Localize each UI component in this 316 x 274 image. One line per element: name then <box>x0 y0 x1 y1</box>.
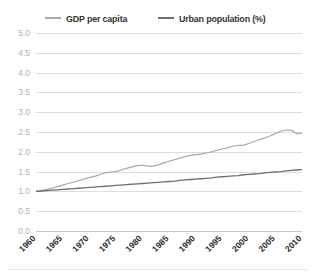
y-tick-label: 2.5 <box>18 127 30 137</box>
x-tick-label: 1990 <box>177 233 198 254</box>
y-tick-label: 0.5 <box>18 206 30 216</box>
y-tick-label: 4.0 <box>18 68 30 78</box>
x-tick-label: 1985 <box>150 233 171 254</box>
x-tick-label: 1965 <box>44 233 65 254</box>
series-line-gdp-per-capita <box>36 130 302 191</box>
y-tick-label: 3.5 <box>18 87 30 97</box>
y-tick-label: 1.0 <box>18 186 30 196</box>
x-tick-label: 2000 <box>230 233 251 254</box>
x-tick-label: 1995 <box>203 233 224 254</box>
x-tick-label: 1980 <box>123 233 144 254</box>
x-tick-label: 2010 <box>283 233 304 254</box>
y-tick-label: 5.0 <box>18 28 30 38</box>
y-axis-tick-labels: 0.00.51.01.52.02.53.03.54.04.55.0 <box>18 28 30 236</box>
line-chart-plot: 0.00.51.01.52.02.53.03.54.04.55.0 196019… <box>0 0 316 274</box>
gridlines-group <box>36 34 302 232</box>
x-tick-label: 1960 <box>17 233 38 254</box>
y-tick-label: 1.5 <box>18 167 30 177</box>
chart-figure: GDP per capita Urban population (%) 0.00… <box>0 0 316 274</box>
x-tick-label: 1975 <box>97 233 118 254</box>
y-tick-label: 3.0 <box>18 107 30 117</box>
x-tick-label: 2005 <box>256 233 277 254</box>
y-tick-label: 2.0 <box>18 147 30 157</box>
x-axis-tick-labels: 1960196519701975198019851990199520002005… <box>17 233 304 254</box>
y-tick-label: 4.5 <box>18 48 30 58</box>
x-tick-label: 1970 <box>70 233 91 254</box>
figure-bottom-divider <box>8 269 308 270</box>
